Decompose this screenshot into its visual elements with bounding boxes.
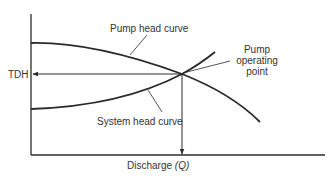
pump-head-curve-label: Pump head curve [110, 23, 188, 34]
operating-point-label-line2: operating [228, 55, 286, 66]
x-axis-label-text: Discharge [127, 160, 172, 171]
pump-head-curve [31, 43, 260, 122]
operating-point-label-line1: Pump [228, 44, 286, 55]
tdh-label: TDH [8, 69, 29, 80]
operating-point-leader [183, 61, 230, 73]
system-head-curve-label: System head curve [97, 116, 183, 127]
x-axis-label-symbol: (Q) [175, 160, 189, 171]
system-curve-leader [148, 90, 162, 112]
system-head-curve [31, 52, 215, 109]
x-axis-label: Discharge (Q) [127, 160, 189, 171]
operating-point-label-line3: point [228, 66, 286, 77]
operating-point-label: Pump operating point [228, 44, 286, 77]
pump-curve-leader [130, 35, 147, 55]
